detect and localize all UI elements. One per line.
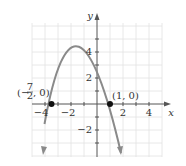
x-tick-label: −4 bbox=[34, 107, 49, 118]
point-right-root bbox=[107, 101, 113, 107]
svg-text:, 0): , 0) bbox=[33, 87, 50, 98]
x-tick-label: 4 bbox=[146, 107, 152, 118]
x-axis-arrow-icon bbox=[164, 102, 171, 107]
graph: −4 −2 2 4 4 2 −2 x y (1, 0) (− 7 2 , 0) bbox=[0, 0, 186, 166]
y-tick-label: 4 bbox=[86, 46, 92, 57]
y-axis-arrow-icon bbox=[95, 13, 100, 20]
x-tick-label: −2 bbox=[61, 107, 76, 118]
y-tick-label: 2 bbox=[86, 72, 92, 83]
point-right-label: (1, 0) bbox=[112, 90, 139, 101]
x-axis-label: x bbox=[168, 107, 174, 118]
point-left-root bbox=[49, 101, 55, 107]
y-axis-label: y bbox=[86, 10, 93, 21]
x-tick-label: 2 bbox=[120, 107, 126, 118]
y-tick-label: −2 bbox=[77, 124, 92, 135]
curve-arrow-left-icon bbox=[41, 146, 47, 155]
curve-arrow-right-icon bbox=[117, 146, 123, 155]
parabola-curve bbox=[45, 46, 122, 153]
